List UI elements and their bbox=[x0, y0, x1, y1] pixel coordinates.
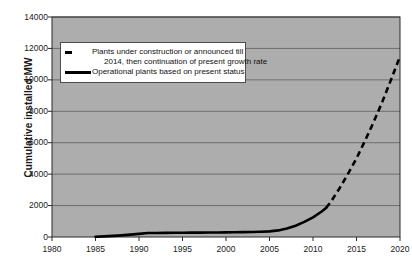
x-tick-label: 2000 bbox=[217, 245, 236, 254]
x-axis-tick-labels: 198019851990199520002005201020152020 bbox=[0, 0, 412, 259]
x-tick-label: 1985 bbox=[86, 245, 105, 254]
chart-figure: Cumulative installed MW 0200040006000800… bbox=[0, 0, 412, 259]
legend-item-operational-label: Operational plants based on present stat… bbox=[92, 67, 245, 77]
legend-planned-line2: 2014, then continuation of present growt… bbox=[92, 57, 267, 67]
legend-operational-line1: Operational plants based on present stat… bbox=[92, 67, 245, 76]
legend-item-planned: Plants under construction or announced t… bbox=[65, 47, 267, 66]
x-tick-label: 1980 bbox=[43, 245, 62, 254]
dashed-line-sample-icon bbox=[65, 47, 91, 57]
x-tick-label: 2010 bbox=[304, 245, 323, 254]
legend-planned-line1: Plants under construction or announced t… bbox=[92, 47, 243, 56]
solid-line-sample-icon bbox=[65, 67, 91, 77]
x-tick-label: 1990 bbox=[130, 245, 149, 254]
x-tick-label: 2015 bbox=[347, 245, 366, 254]
legend-item-operational: Operational plants based on present stat… bbox=[65, 67, 245, 77]
x-tick-label: 1995 bbox=[173, 245, 192, 254]
legend-item-planned-label: Plants under construction or announced t… bbox=[92, 47, 267, 66]
x-tick-label: 2020 bbox=[391, 245, 410, 254]
chart-legend: Plants under construction or announced t… bbox=[60, 42, 246, 83]
x-tick-label: 2005 bbox=[260, 245, 279, 254]
